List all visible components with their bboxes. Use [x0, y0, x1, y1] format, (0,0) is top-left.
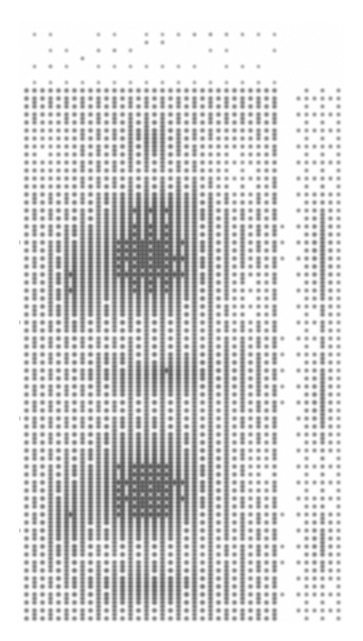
dithered-scan-image [0, 0, 363, 641]
scan-page: A tall narrow dithered halftone scan. Co… [0, 0, 363, 641]
